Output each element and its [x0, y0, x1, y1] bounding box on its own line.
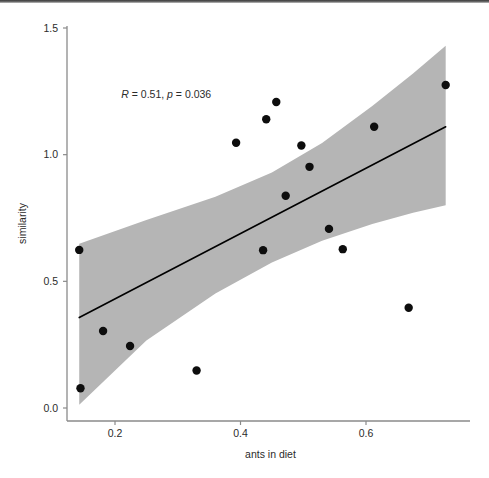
data-point: [232, 139, 240, 147]
data-point: [259, 246, 267, 254]
y-tick-label: 0.5: [43, 275, 58, 287]
x-axis-title: ants in diet: [245, 448, 296, 460]
data-point: [126, 342, 134, 350]
data-point: [192, 366, 200, 374]
data-point: [339, 245, 347, 253]
x-tick-label: 0.4: [233, 427, 248, 439]
data-point: [297, 141, 305, 149]
data-point: [370, 123, 378, 131]
x-tick-label: 0.2: [108, 427, 123, 439]
y-tick-label: 0.0: [43, 402, 58, 414]
data-point: [325, 225, 333, 233]
correlation-annotation: R = 0.51, p = 0.036: [121, 88, 211, 100]
scatter-plot-figure: 0.00.51.01.5 0.20.40.6 ants in diet simi…: [0, 0, 489, 478]
y-tick-label: 1.5: [43, 22, 58, 34]
x-axis-ticks: 0.20.40.6: [108, 421, 374, 439]
data-point: [272, 98, 280, 106]
data-point: [441, 81, 449, 89]
y-axis-title: similarity: [16, 202, 28, 244]
data-point: [404, 303, 412, 311]
y-axis-ticks: 0.00.51.01.5: [43, 22, 67, 414]
plot-canvas: 0.00.51.01.5 0.20.40.6 ants in diet simi…: [0, 0, 489, 478]
data-point: [75, 246, 83, 254]
linear-fit-line: [79, 127, 445, 318]
data-point: [99, 327, 107, 335]
data-point: [76, 384, 84, 392]
x-tick-label: 0.6: [359, 427, 374, 439]
data-point: [305, 163, 313, 171]
annotation-group: R = 0.51, p = 0.036: [121, 88, 211, 100]
data-point: [262, 115, 270, 123]
y-tick-label: 1.0: [43, 148, 58, 160]
regression-line-group: [79, 127, 445, 318]
data-point: [281, 192, 289, 200]
